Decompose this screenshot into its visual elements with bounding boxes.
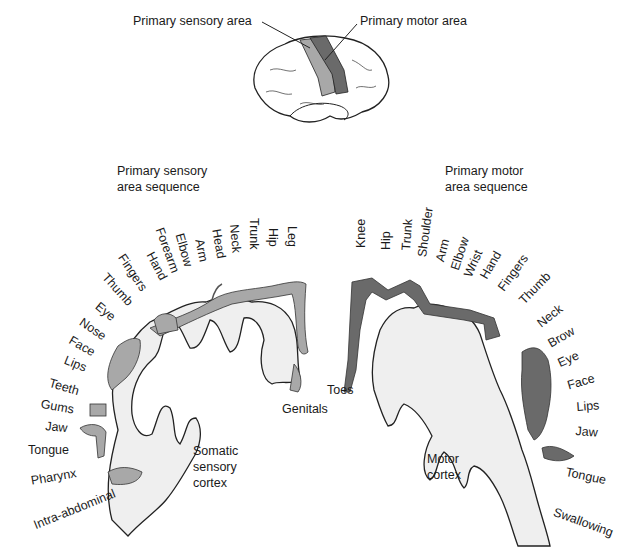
motor-sequence-title: Primary motor area sequence [445, 163, 528, 195]
motor-title-line2: area sequence [445, 179, 528, 195]
motor-part-knee: Knee [355, 219, 368, 248]
label-primary-motor-area: Primary motor area [360, 15, 467, 28]
cortex-label-line2: sensory [193, 459, 238, 475]
label-genitals: Genitals [282, 403, 328, 416]
cortex-label-line1: Somatic [193, 443, 238, 459]
motor-cortex-line1: Motor [427, 451, 461, 467]
sensory-part-hip: Hip [267, 228, 280, 247]
sensory-title-line1: Primary sensory [117, 163, 207, 179]
sensory-part-leg: Leg [286, 226, 299, 247]
cortex-label-line3: cortex [193, 475, 238, 491]
label-toes: Toes [327, 384, 353, 397]
motor-part-jaw: Jaw [575, 425, 598, 439]
motor-part-lips: Lips [576, 399, 600, 413]
motor-title-line1: Primary motor [445, 163, 528, 179]
somatic-sensory-cortex-label: Somatic sensory cortex [193, 443, 238, 491]
label-primary-sensory-area: Primary sensory area [133, 15, 252, 28]
sensory-sequence-title: Primary sensory area sequence [117, 163, 207, 195]
sensory-title-line2: area sequence [117, 179, 207, 195]
motor-cortex-label: Motor cortex [427, 451, 461, 483]
sensory-teeth [90, 404, 106, 416]
motor-part-hip: Hip [380, 231, 393, 250]
motor-cortex-line2: cortex [427, 467, 461, 483]
sensory-part-trunk: Trunk [248, 218, 261, 250]
sensory-part-jaw: Jaw [45, 420, 68, 435]
sensory-tongue [80, 425, 106, 458]
motor-face [521, 348, 551, 440]
diagram-canvas [0, 0, 629, 550]
sensory-part-tongue: Tongue [28, 444, 69, 457]
sensory-part-neck: Neck [228, 224, 243, 253]
motor-part-trunk: Trunk [400, 219, 415, 251]
overview-brain [254, 22, 389, 122]
motor-tongue [542, 446, 574, 460]
sensory-hand [154, 314, 178, 334]
